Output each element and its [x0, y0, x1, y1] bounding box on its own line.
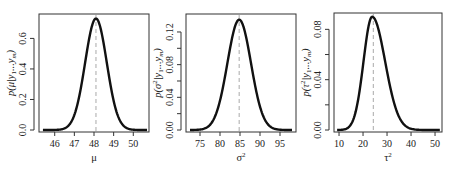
- x-tick-label: 40: [406, 138, 416, 149]
- x-tick-label: 50: [128, 138, 138, 149]
- x-axis-label: τ2: [384, 151, 392, 163]
- x-tick-label: 95: [275, 138, 285, 149]
- x-tick-label: 30: [382, 138, 392, 149]
- x-axis-label: μ: [91, 152, 97, 163]
- y-tick-label: 0.00: [164, 121, 175, 139]
- y-tick-label: 0.12: [164, 23, 175, 41]
- x-tick-label: 50: [430, 138, 440, 149]
- panel-sigma2-posterior: 75808590950.000.040.080.12σ2p(σ2|y1...ym…: [151, 14, 296, 163]
- y-axis-label: p(σ2|y1...ym): [151, 48, 165, 99]
- y-tick-label: 0.00: [312, 121, 323, 139]
- x-tick-label: 85: [235, 138, 245, 149]
- y-tick-label: 0.4: [17, 63, 28, 76]
- x-tick-label: 80: [215, 138, 225, 149]
- x-tick-label: 90: [255, 138, 265, 149]
- plot-frame: [39, 14, 149, 132]
- x-tick-label: 48: [89, 138, 99, 149]
- x-tick-label: 49: [109, 138, 119, 149]
- density-curve: [43, 19, 147, 130]
- plot-frame: [186, 14, 296, 132]
- y-tick-label: 0.6: [17, 32, 28, 45]
- y-axis-label: p(μ|y1...ym): [5, 49, 18, 97]
- x-tick-label: 47: [69, 138, 79, 149]
- figure: 46474849500.00.20.40.6μp(μ|y1...ym) 7580…: [0, 0, 457, 176]
- density-curve: [190, 20, 292, 130]
- density-curve: [337, 17, 440, 130]
- y-tick-label: 0.0: [17, 124, 28, 137]
- x-tick-label: 46: [50, 138, 60, 149]
- y-tick-label: 0.2: [17, 93, 28, 106]
- y-tick-label: 0.08: [312, 21, 323, 39]
- panel-mu-posterior: 46474849500.00.20.40.6μp(μ|y1...ym): [5, 14, 149, 163]
- y-tick-label: 0.04: [164, 89, 175, 107]
- x-tick-label: 75: [195, 138, 205, 149]
- y-tick-label: 0.04: [312, 71, 323, 89]
- x-axis-label: σ2: [236, 151, 246, 163]
- y-axis-label: p(τ2|y1...ym): [299, 48, 313, 98]
- y-tick-label: 0.08: [164, 56, 175, 74]
- panel-tau2-posterior: 10203040500.000.040.08τ2p(τ2|y1...ym): [299, 13, 442, 163]
- x-tick-label: 10: [334, 138, 344, 149]
- x-tick-label: 20: [358, 138, 368, 149]
